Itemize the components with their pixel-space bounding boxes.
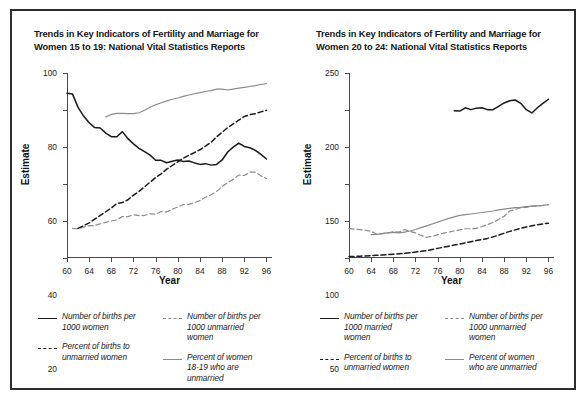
series-line (106, 84, 267, 117)
panel-left-title-line2: Women 15 to 19: National Vital Statistic… (34, 41, 284, 54)
x-tick-label: 60 (344, 266, 353, 276)
legend-item[interactable]: Percent of births tounmarried women (38, 341, 163, 362)
x-tick-label: 60 (62, 266, 71, 276)
x-tick-mark: 84 (200, 258, 201, 262)
x-tick-mark: 84 (482, 258, 483, 262)
y-tick-label: 100 (325, 290, 339, 300)
panel-right-title-line2: Women 20 to 24: National Vital Statistic… (316, 41, 566, 54)
x-tick-label: 96 (262, 266, 271, 276)
x-tick-label: 96 (544, 266, 553, 276)
x-tick-mark: 96 (548, 258, 549, 262)
y-tick-label: 150 (325, 216, 339, 226)
y-tick-mark: 80 (63, 110, 67, 111)
x-tick-mark: 60 (67, 258, 68, 262)
chart-lines-right (349, 73, 554, 258)
series-line (454, 99, 548, 113)
y-tick-mark: 100 (345, 184, 349, 185)
dashed-line-icon (445, 314, 464, 323)
y-tick-label: 100 (43, 68, 57, 78)
y-tick-label: 40 (48, 290, 57, 300)
legend-column: Number of births per1000 marriedwomenPer… (320, 311, 445, 382)
legend-item[interactable]: Number of births per1000 unmarriedwomen (163, 311, 288, 343)
legend-item-label: Number of births per1000 women (62, 311, 136, 332)
x-tick-mark: 64 (371, 258, 372, 262)
x-tick-mark: 92 (526, 258, 527, 262)
legend-item[interactable]: Percent of births tounmarried women (320, 352, 445, 373)
legend-item-label: Percent of births tounmarried women (344, 352, 412, 373)
legend-item-label: Percent of womenwho are unmarried (469, 352, 536, 373)
dashed-line-icon (320, 355, 339, 364)
solid-line-icon (445, 355, 464, 364)
y-tick-mark: 40 (63, 184, 67, 185)
figure-frame: Trends in Key Indicators of Fertility an… (10, 9, 576, 390)
legend-item[interactable]: Number of births per1000 marriedwomen (320, 311, 445, 343)
series-line (73, 172, 267, 229)
series-line (349, 223, 548, 256)
x-tick-label: 88 (499, 266, 508, 276)
y-tick-label: 200 (325, 142, 339, 152)
series-line (349, 205, 548, 238)
x-tick-mark: 68 (111, 258, 112, 262)
plot-area-left: 02040608010060646872768084889296 (67, 73, 272, 258)
x-tick-mark: 80 (178, 258, 179, 262)
legend-left: Number of births per1000 womenPercent of… (38, 311, 288, 392)
legend-column: Number of births per1000 unmarriedwomenP… (163, 311, 288, 392)
x-axis-title-right: Year (441, 275, 462, 286)
x-tick-mark: 76 (156, 258, 157, 262)
legend-item[interactable]: Percent of womenwho are unmarried (445, 352, 570, 373)
series-line (67, 93, 266, 165)
panel-left-title-line1: Trends in Key Indicators of Fertility an… (34, 28, 284, 41)
dashed-line-icon (38, 344, 57, 353)
panel-left-title: Trends in Key Indicators of Fertility an… (34, 28, 284, 53)
x-tick-mark: 60 (349, 258, 350, 262)
legend-item-label: Percent of women18-19 who areunmarried (187, 352, 252, 384)
x-tick-mark: 96 (266, 258, 267, 262)
y-tick-mark: 50 (345, 221, 349, 222)
x-tick-mark: 88 (222, 258, 223, 262)
chart-panel-right: Trends in Key Indicators of Fertility an… (294, 11, 576, 388)
chart-lines-left (67, 73, 272, 258)
x-tick-label: 68 (389, 266, 398, 276)
x-tick-label: 64 (84, 266, 93, 276)
y-tick-mark: 250 (345, 73, 349, 74)
legend-item[interactable]: Number of births per1000 unmarriedwomen (445, 311, 570, 343)
x-tick-label: 84 (195, 266, 204, 276)
legend-item-label: Number of births per1000 unmarriedwomen (187, 311, 261, 343)
legend-item[interactable]: Number of births per1000 women (38, 311, 163, 332)
x-tick-mark: 72 (133, 258, 134, 262)
x-axis-title-left: Year (159, 275, 180, 286)
y-tick-label: 250 (325, 68, 339, 78)
solid-line-icon (163, 355, 182, 364)
y-tick-mark: 20 (63, 221, 67, 222)
y-tick-label: 80 (48, 142, 57, 152)
dashed-line-icon (163, 314, 182, 323)
solid-line-icon (38, 314, 57, 323)
x-tick-mark: 72 (415, 258, 416, 262)
x-tick-label: 92 (522, 266, 531, 276)
panel-right-title-line1: Trends in Key Indicators of Fertility an… (316, 28, 566, 41)
y-tick-mark: 60 (63, 147, 67, 148)
legend-right: Number of births per1000 marriedwomenPer… (320, 311, 570, 382)
x-tick-mark: 76 (438, 258, 439, 262)
series-line (78, 110, 266, 228)
x-tick-mark: 80 (460, 258, 461, 262)
solid-line-icon (320, 314, 339, 323)
legend-item-label: Number of births per1000 unmarriedwomen (469, 311, 543, 343)
x-tick-label: 68 (107, 266, 116, 276)
y-tick-mark: 200 (345, 110, 349, 111)
legend-item[interactable]: Percent of women18-19 who areunmarried (163, 352, 288, 384)
x-tick-label: 72 (411, 266, 420, 276)
chart-panel-left: Trends in Key Indicators of Fertility an… (12, 11, 294, 388)
y-axis-title-left: Estimate (20, 143, 31, 185)
x-tick-mark: 92 (244, 258, 245, 262)
plot-area-right: 05010015020025060646872768084889296 (349, 73, 554, 258)
panel-right-title: Trends in Key Indicators of Fertility an… (316, 28, 566, 53)
legend-column: Number of births per1000 unmarriedwomenP… (445, 311, 570, 382)
y-tick-label: 60 (48, 216, 57, 226)
x-tick-label: 84 (477, 266, 486, 276)
x-tick-mark: 88 (504, 258, 505, 262)
legend-item-label: Percent of births tounmarried women (62, 341, 130, 362)
x-tick-label: 92 (240, 266, 249, 276)
y-axis-title-right: Estimate (302, 143, 313, 185)
y-tick-mark: 150 (345, 147, 349, 148)
